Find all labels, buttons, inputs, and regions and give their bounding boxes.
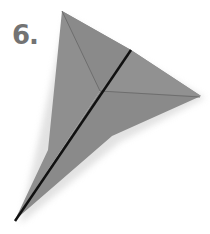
instruction-step: 6. (0, 0, 210, 234)
right-wing (15, 11, 201, 220)
paper-airplane-illustration (0, 0, 210, 234)
